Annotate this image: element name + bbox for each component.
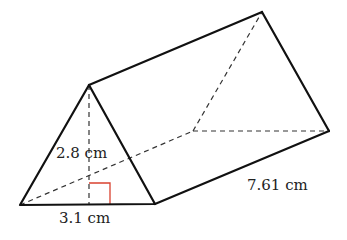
edge-top-ridge — [89, 12, 262, 85]
edge-back-right-slant — [262, 12, 329, 131]
hidden-edge-back-slant — [193, 12, 262, 131]
triangular-prism-diagram: 2.8 cm 3.1 cm 7.61 cm — [0, 0, 347, 240]
height-label: 2.8 cm — [56, 144, 107, 162]
length-label: 7.61 cm — [247, 176, 308, 194]
base-label: 3.1 cm — [59, 209, 110, 227]
hidden-edge-back-base-left — [20, 131, 193, 205]
right-angle-marker — [89, 183, 110, 204]
